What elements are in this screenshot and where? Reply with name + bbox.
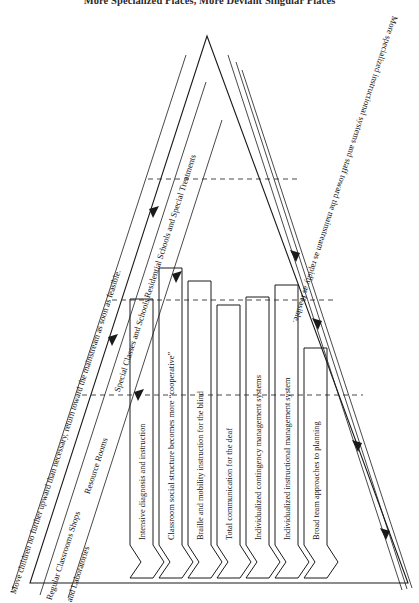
arrow-column-7 xyxy=(304,348,338,578)
triangle-outline xyxy=(30,36,408,583)
column-label-7: Broad team approaches to planning xyxy=(312,421,321,540)
diagram-svg xyxy=(0,0,419,603)
column-label-5: Individualized contingency management sy… xyxy=(254,375,263,540)
arrow-columns xyxy=(130,268,338,578)
column-label-4: Total communication for the deaf xyxy=(225,428,234,540)
column-label-6: Individualized instructional management … xyxy=(283,377,292,540)
left-flow-guides xyxy=(12,55,222,598)
column-label-1: Intensive diagnosis and instruction xyxy=(138,423,147,540)
column-label-2: Classroom social structure becomes more … xyxy=(167,352,176,540)
column-label-3: Braille and mobility instruction for the… xyxy=(196,391,205,540)
figure-canvas: More Specialized Places, More Deviant Si… xyxy=(0,0,419,603)
